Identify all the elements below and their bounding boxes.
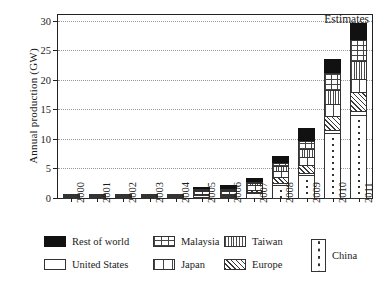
- x-axis-tick-label: 2008: [284, 182, 295, 203]
- bar-segment-japan: [272, 171, 289, 178]
- legend-label: Taiwan: [252, 236, 283, 247]
- bar-segment-europe: [324, 116, 341, 131]
- y-axis-tick-label: 15: [25, 104, 51, 115]
- y-axis-tick-label: 25: [25, 45, 51, 56]
- legend-item-japan[interactable]: Japan: [153, 259, 205, 270]
- x-axis-tick-label: 2001: [101, 182, 112, 203]
- legend-item-china[interactable]: China: [311, 239, 357, 272]
- x-axis-tick-mark: [123, 198, 124, 202]
- malaysia-swatch-icon: [153, 236, 175, 247]
- bar-segment-rest-of-world: [298, 128, 315, 140]
- x-axis-tick-label: 2005: [206, 182, 217, 203]
- x-axis-tick-label: 2010: [337, 182, 348, 203]
- bar-segment-japan: [324, 104, 341, 116]
- x-axis-tick-mark: [176, 198, 177, 202]
- europe-swatch-icon: [224, 259, 246, 270]
- rest-of-world-swatch-icon: [44, 236, 66, 247]
- chart-legend: Rest of world United States Malaysia Jap…: [0, 232, 383, 284]
- legend-item-europe[interactable]: Europe: [224, 259, 282, 270]
- bar-segment-rest-of-world: [272, 156, 289, 163]
- x-axis-tick-mark: [97, 198, 98, 202]
- y-axis-tick-label: 30: [25, 15, 51, 26]
- bar-segment-taiwan: [350, 61, 367, 79]
- bar-segment-japan: [350, 79, 367, 93]
- legend-label: Europe: [252, 259, 282, 270]
- bar-segment-japan: [298, 157, 315, 165]
- japan-swatch-icon: [153, 259, 175, 270]
- legend-item-rest-of-world[interactable]: Rest of world: [44, 236, 129, 247]
- stacked-bar[interactable]: [350, 23, 367, 198]
- y-axis-tick-mark: [53, 80, 57, 81]
- x-axis-tick-mark: [333, 198, 334, 202]
- y-axis-tick-label: 5: [25, 163, 51, 174]
- x-axis-tick-mark: [307, 198, 308, 202]
- legend-item-malaysia[interactable]: Malaysia: [153, 236, 220, 247]
- bar-segment-taiwan: [298, 149, 315, 158]
- x-axis-tick-mark: [280, 198, 281, 202]
- x-axis-tick-label: 2004: [180, 182, 191, 203]
- legend-label: Japan: [181, 259, 205, 270]
- bar-segment-malaysia: [350, 40, 367, 62]
- x-axis-tick-label: 2003: [154, 182, 165, 203]
- bar-segment-europe: [298, 165, 315, 174]
- bar-segment-malaysia: [298, 141, 315, 150]
- legend-label: United States: [72, 259, 128, 270]
- y-axis-tick-mark: [53, 168, 57, 169]
- y-axis-tick-label: 0: [25, 193, 51, 204]
- legend-label: China: [332, 250, 357, 261]
- x-axis-tick-label: 2009: [311, 182, 322, 203]
- x-axis-tick-mark: [254, 198, 255, 202]
- bar-segment-europe: [350, 92, 367, 112]
- y-axis-tick-label: 20: [25, 74, 51, 85]
- legend-label: Rest of world: [72, 236, 129, 247]
- x-axis-tick-mark: [71, 198, 72, 202]
- legend-item-united-states[interactable]: United States: [44, 259, 128, 270]
- bar-segment-taiwan: [324, 90, 341, 105]
- china-swatch-icon: [311, 239, 326, 272]
- legend-label: Malaysia: [181, 236, 220, 247]
- bar-segment-rest-of-world: [350, 23, 367, 40]
- y-axis-tick-mark: [53, 198, 57, 199]
- bar-segment-rest-of-world: [324, 59, 341, 73]
- chart-figure: Annual production (GW) Estimates 0510152…: [0, 0, 383, 288]
- stacked-bar[interactable]: [324, 59, 341, 198]
- y-axis-tick-mark: [53, 21, 57, 22]
- x-axis-tick-label: 2002: [127, 182, 138, 203]
- bar-segment-malaysia: [272, 163, 289, 168]
- x-axis-tick-label: 2006: [232, 182, 243, 203]
- x-axis-tick-label: 2007: [258, 182, 269, 203]
- y-axis-tick-mark: [53, 109, 57, 110]
- x-axis-tick-mark: [228, 198, 229, 202]
- bar-segment-malaysia: [324, 73, 341, 91]
- x-axis-tick-label: 2011: [363, 182, 374, 203]
- legend-item-taiwan[interactable]: Taiwan: [224, 236, 283, 247]
- y-axis-tick-mark: [53, 139, 57, 140]
- united-states-swatch-icon: [44, 259, 66, 270]
- x-axis-tick-label: 2000: [75, 182, 86, 203]
- bar-series-group: [58, 14, 372, 198]
- x-axis-tick-mark: [150, 198, 151, 202]
- y-axis-tick-label: 10: [25, 133, 51, 144]
- x-axis-tick-mark: [202, 198, 203, 202]
- x-axis-tick-mark: [359, 198, 360, 202]
- y-axis-tick-mark: [53, 50, 57, 51]
- taiwan-swatch-icon: [224, 236, 246, 247]
